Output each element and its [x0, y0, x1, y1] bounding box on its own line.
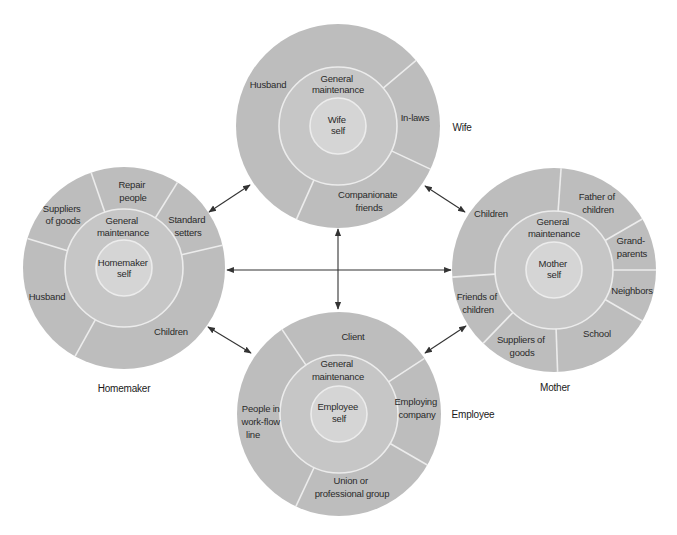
role-label-homemaker: Homemaker — [98, 383, 152, 394]
homemaker-segment-children: Children — [154, 326, 188, 337]
role-label-mother: Mother — [540, 382, 571, 393]
role-wife: Wife self General maintenance Husband In… — [236, 24, 472, 228]
wife-segment-husband: Husband — [250, 79, 287, 90]
role-mother: Mother self General maintenance Children… — [452, 168, 656, 393]
role-label-employee: Employee — [452, 409, 496, 420]
role-employee: Employee self General maintenance Client… — [237, 312, 495, 516]
mother-segment-neighbors: Neighbors — [611, 285, 653, 296]
role-label-wife: Wife — [452, 122, 472, 133]
employee-segment-client: Client — [341, 331, 365, 342]
wife-segment-in-laws: In-laws — [401, 112, 430, 123]
role-set-diagram: Wife self General maintenance Husband In… — [0, 0, 677, 535]
arrow-homemaker-employee — [208, 327, 251, 353]
arrow-homemaker-wife — [209, 185, 250, 212]
mother-segment-children: Children — [474, 208, 508, 219]
arrow-wife-mother — [425, 186, 465, 212]
arrow-employee-mother — [425, 326, 466, 353]
mother-segment-school: School — [583, 328, 611, 339]
homemaker-segment-suppliers: Suppliers of goods — [43, 203, 83, 226]
role-homemaker: Homemaker self General maintenance Suppl… — [23, 167, 225, 394]
homemaker-segment-husband: Husband — [29, 291, 66, 302]
